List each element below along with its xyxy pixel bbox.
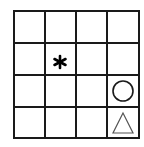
- grid-svg: [13, 10, 140, 139]
- puzzle-grid: [13, 10, 140, 139]
